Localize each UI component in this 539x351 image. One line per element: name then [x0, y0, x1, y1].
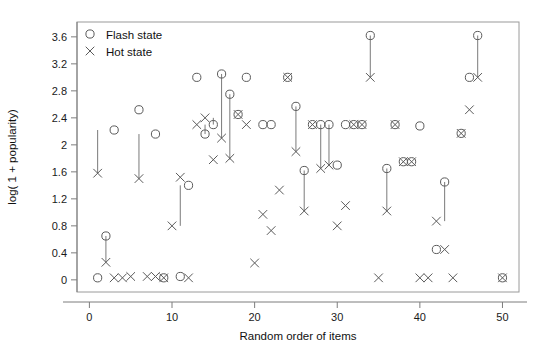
scatter-figure: 00.40.81.21.622.42.83.23.601020304050Ran…: [0, 0, 539, 351]
y-tick-label: 0.4: [52, 247, 67, 259]
flash-state-marker: [242, 73, 250, 81]
y-tick-label: 1.2: [52, 193, 67, 205]
y-tick-label: 2.4: [52, 112, 67, 124]
x-axis-title: Random order of items: [240, 330, 357, 342]
y-tick-label: 1.6: [52, 166, 67, 178]
x-tick-label: 40: [414, 311, 426, 323]
x-tick-label: 20: [249, 311, 261, 323]
legend-label-0: Flash state: [106, 29, 162, 41]
y-axis-title: log( 1 + popularity): [6, 109, 18, 205]
flash-state-marker: [465, 73, 473, 81]
flash-state-marker: [94, 274, 102, 282]
flash-state-marker: [184, 181, 192, 189]
flash-state-marker: [432, 245, 440, 253]
y-tick-label: 2: [61, 139, 67, 151]
y-tick-label: 3.2: [52, 58, 67, 70]
x-tick-label: 0: [86, 311, 92, 323]
flash-state-marker: [176, 272, 184, 280]
plot-frame: [77, 22, 519, 292]
plot-area: 00.40.81.21.622.42.83.23.601020304050Ran…: [0, 0, 539, 351]
flash-state-marker: [135, 106, 143, 114]
legend-label-1: Hot state: [106, 46, 152, 58]
x-tick-label: 50: [496, 311, 508, 323]
flash-state-marker: [333, 161, 341, 169]
flash-state-marker: [193, 73, 201, 81]
flash-state-marker: [110, 126, 118, 134]
flash-state-marker: [267, 121, 275, 129]
y-tick-label: 2.8: [52, 85, 67, 97]
y-tick-label: 0: [61, 274, 67, 286]
y-tick-label: 0.8: [52, 220, 67, 232]
x-tick-label: 30: [331, 311, 343, 323]
flash-state-marker: [416, 122, 424, 130]
y-tick-label: 3.6: [52, 31, 67, 43]
x-tick-label: 10: [166, 311, 178, 323]
flash-state-marker: [341, 121, 349, 129]
flash-state-marker: [259, 121, 267, 129]
flash-state-marker: [86, 30, 94, 38]
flash-state-marker: [151, 130, 159, 138]
